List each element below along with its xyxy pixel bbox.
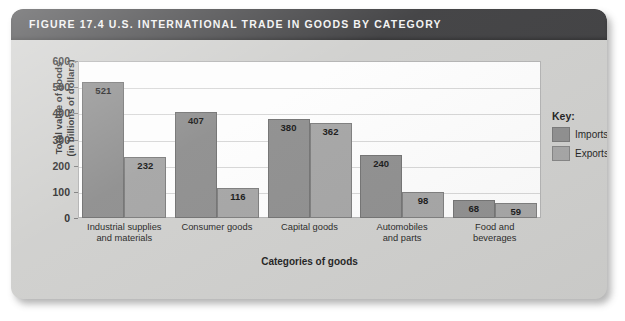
figure-panel: FIGURE 17.4 U.S. INTERNATIONAL TRADE IN … bbox=[11, 9, 607, 299]
y-axis-tick-mark bbox=[74, 218, 78, 219]
legend-label: Imports bbox=[575, 129, 607, 140]
bar-value-label: 59 bbox=[496, 206, 536, 217]
figure-screenshot: FIGURE 17.4 U.S. INTERNATIONAL TRADE IN … bbox=[0, 0, 625, 321]
y-axis-tick-label: 100 bbox=[36, 186, 70, 198]
bar-group: 521232 bbox=[82, 61, 166, 218]
x-axis-tick-label-line: and materials bbox=[69, 233, 179, 244]
y-axis-tick-label: 200 bbox=[36, 160, 70, 172]
bar-group: 6859 bbox=[453, 61, 537, 218]
bar-exports: 59 bbox=[495, 203, 537, 218]
legend-swatch bbox=[552, 127, 570, 142]
bar-value-label: 240 bbox=[361, 158, 401, 169]
bar-value-label: 98 bbox=[403, 195, 443, 206]
legend-label: Exports bbox=[575, 148, 607, 159]
bar-group: 380362 bbox=[268, 61, 352, 218]
bar-group: 24098 bbox=[360, 61, 444, 218]
legend-item: Exports bbox=[552, 146, 607, 161]
bar-value-label: 407 bbox=[176, 115, 216, 126]
bar-imports: 407 bbox=[175, 112, 217, 218]
bar-value-label: 116 bbox=[218, 191, 258, 202]
x-axis-tick-label: Food andbeverages bbox=[440, 222, 550, 244]
bar-exports: 98 bbox=[402, 192, 444, 218]
bar-group: 407116 bbox=[175, 61, 259, 218]
bar-imports: 521 bbox=[82, 82, 124, 218]
y-axis-tick-label: 500 bbox=[36, 81, 70, 93]
x-axis-tick-label-line: beverages bbox=[440, 233, 550, 244]
y-axis-tick-label: 600 bbox=[36, 55, 70, 67]
bar-value-label: 232 bbox=[125, 160, 165, 171]
legend-swatch bbox=[552, 146, 570, 161]
bar-value-label: 362 bbox=[311, 126, 351, 137]
legend-items: ImportsExports bbox=[552, 127, 607, 161]
figure-title: FIGURE 17.4 U.S. INTERNATIONAL TRADE IN … bbox=[29, 18, 442, 30]
bar-imports: 240 bbox=[360, 155, 402, 218]
bar-exports: 116 bbox=[217, 188, 259, 218]
bar-value-label: 68 bbox=[454, 203, 494, 214]
y-axis-tick-label: 400 bbox=[36, 107, 70, 119]
x-axis-tick-label-line: Food and bbox=[440, 222, 550, 233]
figure-title-bar: FIGURE 17.4 U.S. INTERNATIONAL TRADE IN … bbox=[11, 9, 607, 40]
legend-item: Imports bbox=[552, 127, 607, 142]
bar-imports: 68 bbox=[453, 200, 495, 218]
bar-value-label: 380 bbox=[269, 122, 309, 133]
legend-title: Key: bbox=[552, 110, 607, 122]
y-axis-tick-label: 0 bbox=[36, 212, 70, 224]
x-axis-title: Categories of goods bbox=[78, 256, 541, 267]
bar-exports: 232 bbox=[124, 157, 166, 218]
bar-imports: 380 bbox=[268, 119, 310, 218]
bar-exports: 362 bbox=[310, 123, 352, 218]
bar-value-label: 521 bbox=[83, 85, 123, 96]
bars-layer: 521232407116380362240986859 bbox=[78, 61, 541, 218]
chart-area: Total value of goods (in billions of dol… bbox=[11, 40, 607, 299]
chart-legend: Key: ImportsExports bbox=[552, 110, 607, 165]
y-axis-tick-label: 300 bbox=[36, 134, 70, 146]
